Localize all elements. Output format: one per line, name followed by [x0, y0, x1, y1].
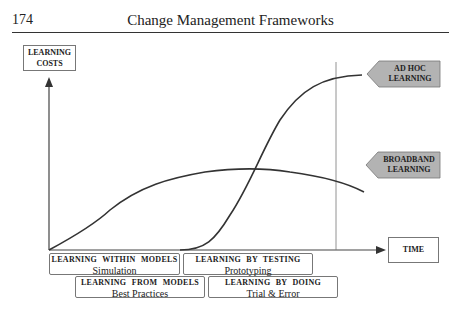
x-axis-label: TIME [388, 237, 439, 263]
phase-box-learning-within-models: LEARNING WITHIN MODELS Simulation [49, 253, 180, 275]
y-axis-label-line1: LEARNING [24, 47, 75, 58]
phase-subtitle: Best Practices [76, 288, 204, 299]
broadband-label-line2: LEARNING [378, 165, 440, 175]
phase-box-learning-by-doing: LEARNING BY DOING Trial & Error [208, 276, 338, 298]
ad-hoc-learning-curve [180, 75, 362, 250]
broadband-label-line1: BROADBAND [378, 155, 440, 165]
phase-title: LEARNING BY DOING [209, 278, 337, 288]
y-axis-label-line2: COSTS [24, 58, 75, 69]
phase-subtitle: Prototyping [184, 265, 312, 276]
y-axis-label: LEARNING COSTS [23, 45, 76, 71]
broadband-learning-curve [49, 169, 364, 250]
y-axis-arrow-icon [45, 77, 53, 87]
phase-box-learning-from-models: LEARNING FROM MODELS Best Practices [75, 276, 205, 298]
phase-subtitle: Simulation [50, 265, 179, 276]
phase-title: LEARNING FROM MODELS [76, 278, 204, 288]
ad-hoc-label-line1: AD HOC [380, 64, 440, 74]
ad-hoc-label-line2: LEARNING [380, 74, 440, 84]
ad-hoc-learning-label: AD HOC LEARNING [380, 64, 440, 84]
phase-title: LEARNING WITHIN MODELS [50, 255, 179, 265]
broadband-learning-label: BROADBAND LEARNING [378, 155, 440, 175]
phase-subtitle: Trial & Error [209, 288, 337, 299]
phase-title: LEARNING BY TESTING [184, 255, 312, 265]
x-axis-arrow-icon [376, 246, 386, 254]
phase-box-learning-by-testing: LEARNING BY TESTING Prototyping [183, 253, 313, 275]
